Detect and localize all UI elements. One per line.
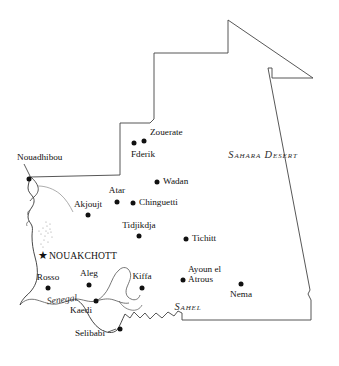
national-border-outline bbox=[30, 20, 313, 320]
city-dot-fderik[interactable] bbox=[132, 141, 137, 146]
city-label-atar[interactable]: Atar bbox=[109, 186, 125, 196]
city-label-selibabi[interactable]: Selibabi bbox=[75, 329, 105, 339]
city-label-ayoun-el-atrous[interactable]: Ayoun elAtrous bbox=[188, 265, 221, 285]
city-dot-rosso[interactable] bbox=[46, 286, 51, 291]
city-label-akjoujt[interactable]: Akjoujt bbox=[74, 200, 102, 210]
capital-star-icon[interactable]: ★ bbox=[38, 250, 48, 261]
city-label-kiffa[interactable]: Kiffa bbox=[132, 272, 151, 282]
city-dot-selibabi[interactable] bbox=[118, 327, 123, 332]
inland-watercourse bbox=[38, 186, 73, 212]
region-label-sahara-desert: Sahara Desert bbox=[228, 149, 297, 160]
city-dot-nema[interactable] bbox=[239, 282, 244, 287]
city-label-aleg[interactable]: Aleg bbox=[80, 269, 98, 279]
city-dot-wadan[interactable] bbox=[155, 180, 160, 185]
capital-label-nouakchott[interactable]: NOUAKCHOTT bbox=[49, 250, 117, 261]
city-dot-tichitt[interactable] bbox=[184, 237, 189, 242]
city-label-wadan[interactable]: Wadan bbox=[163, 177, 188, 187]
city-label-fderik[interactable]: Fderik bbox=[131, 150, 155, 160]
atlantic-coastline bbox=[20, 176, 37, 305]
city-dot-ayoun-el-atrous[interactable] bbox=[181, 278, 186, 283]
city-dot-aleg[interactable] bbox=[87, 283, 92, 288]
city-dot-zouerate[interactable] bbox=[142, 139, 147, 144]
city-dot-atar[interactable] bbox=[115, 200, 120, 205]
city-label-zouerate[interactable]: Zouerate bbox=[150, 128, 183, 138]
city-label-nouadhibou[interactable]: Nouadhibou bbox=[17, 153, 62, 163]
mauritania-map: ★ ZouerateFderikWadanAtarChinguettiAkjou… bbox=[0, 0, 339, 366]
city-label-line-2: Atrous bbox=[188, 275, 221, 285]
region-label-sahel: Sahel bbox=[174, 301, 201, 312]
city-label-chinguetti[interactable]: Chinguetti bbox=[139, 198, 178, 208]
nouadhibou-peninsula bbox=[30, 177, 38, 201]
sabkha-stipple bbox=[38, 221, 52, 247]
city-dot-akjoujt[interactable] bbox=[86, 213, 91, 218]
city-dot-kaedi[interactable] bbox=[94, 299, 99, 304]
city-label-rosso[interactable]: Rosso bbox=[37, 273, 59, 283]
city-label-kaedi[interactable]: Kaedi bbox=[70, 306, 92, 316]
city-dot-tidjikdja[interactable] bbox=[137, 234, 142, 239]
city-dot-chinguetti[interactable] bbox=[131, 201, 136, 206]
city-label-tidjikdja[interactable]: Tidjikdja bbox=[122, 221, 155, 231]
city-dot-kiffa[interactable] bbox=[140, 286, 145, 291]
city-label-nema[interactable]: Nema bbox=[230, 290, 252, 300]
nouadhibou-leader-line bbox=[24, 164, 30, 176]
city-dot-nouadhibou[interactable] bbox=[27, 177, 32, 182]
city-label-tichitt[interactable]: Tichitt bbox=[192, 234, 216, 244]
